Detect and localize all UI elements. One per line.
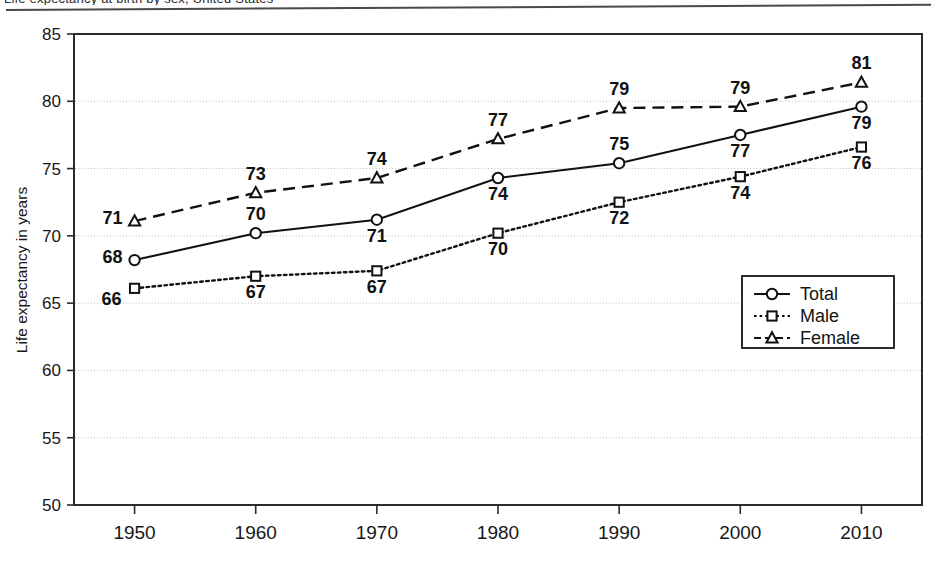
life-expectancy-line-chart: 8580757065605550 19501960197019801990200… bbox=[0, 0, 939, 566]
data-label-male-2010: 76 bbox=[851, 153, 871, 173]
legend-label-female[interactable]: Female bbox=[800, 328, 860, 348]
data-label-female-2000: 79 bbox=[730, 78, 750, 98]
y-axis-title-text: Life expectancy in years bbox=[13, 187, 30, 354]
y-tick-label-75: 75 bbox=[42, 160, 61, 179]
legend-label-male[interactable]: Male bbox=[800, 306, 839, 326]
data-label-total-1970: 71 bbox=[367, 226, 387, 246]
marker-total-1980 bbox=[493, 173, 503, 183]
marker-total-1970 bbox=[372, 215, 382, 225]
series-male bbox=[130, 142, 866, 293]
data-label-female-1950: 71 bbox=[103, 208, 123, 228]
marker-male-1950 bbox=[130, 284, 139, 293]
data-label-total-1980: 74 bbox=[488, 184, 508, 204]
marker-total-1960 bbox=[251, 228, 261, 238]
data-label-male-1980: 70 bbox=[488, 239, 508, 259]
marker-male-1980 bbox=[493, 229, 502, 238]
data-label-male-1990: 72 bbox=[609, 208, 629, 228]
marker-total-2010 bbox=[856, 101, 866, 111]
x-tick-label-1980: 1980 bbox=[477, 522, 519, 543]
marker-female-1950 bbox=[129, 215, 140, 225]
marker-total-2000 bbox=[735, 130, 745, 140]
data-label-total-1960: 70 bbox=[246, 204, 266, 224]
data-label-total-2000: 77 bbox=[730, 141, 750, 161]
data-label-total-1990: 75 bbox=[609, 134, 629, 154]
data-label-male-1970: 67 bbox=[367, 277, 387, 297]
marker-male-1970 bbox=[372, 266, 381, 275]
marker-male-2010 bbox=[857, 142, 866, 151]
chart-legend[interactable]: TotalMaleFemale bbox=[742, 276, 894, 348]
legend-label-total[interactable]: Total bbox=[800, 284, 838, 304]
data-label-female-1980: 77 bbox=[488, 110, 508, 130]
marker-female-1970 bbox=[371, 172, 382, 182]
marker-total-1950 bbox=[129, 255, 139, 265]
marker-female-1990 bbox=[614, 102, 625, 112]
data-label-male-2000: 74 bbox=[730, 183, 750, 203]
data-label-male-1950: 66 bbox=[102, 289, 122, 309]
marker-male-1960 bbox=[251, 272, 260, 281]
y-axis-title: Life expectancy in years bbox=[13, 187, 30, 354]
marker-total-1990 bbox=[614, 158, 624, 168]
marker-female-1960 bbox=[250, 187, 261, 197]
x-tick-label-1990: 1990 bbox=[598, 522, 640, 543]
y-tick-label-65: 65 bbox=[42, 294, 61, 313]
data-label-female-1990: 79 bbox=[609, 79, 629, 99]
marker-female-2010 bbox=[856, 77, 867, 87]
x-tick-label-2000: 2000 bbox=[719, 522, 761, 543]
y-axis-ticks: 8580757065605550 bbox=[42, 25, 74, 515]
square-marker bbox=[767, 311, 776, 320]
data-label-female-2010: 81 bbox=[851, 53, 871, 73]
circle-marker bbox=[767, 289, 777, 299]
marker-female-1980 bbox=[492, 133, 503, 143]
x-tick-label-1950: 1950 bbox=[113, 522, 155, 543]
y-tick-label-60: 60 bbox=[42, 361, 61, 380]
data-label-total-1950: 68 bbox=[103, 247, 123, 267]
data-label-male-1960: 67 bbox=[246, 282, 266, 302]
y-tick-label-85: 85 bbox=[42, 25, 61, 44]
data-label-total-2010: 79 bbox=[851, 113, 871, 133]
y-tick-label-80: 80 bbox=[42, 92, 61, 111]
y-tick-label-50: 50 bbox=[42, 496, 61, 515]
plot-frame bbox=[74, 34, 922, 505]
marker-male-1990 bbox=[615, 198, 624, 207]
x-tick-label-1960: 1960 bbox=[235, 522, 277, 543]
y-tick-label-55: 55 bbox=[42, 429, 61, 448]
chart-page: Life expectancy at birth by sex, United … bbox=[0, 0, 939, 566]
marker-male-2000 bbox=[736, 172, 745, 181]
data-label-female-1960: 73 bbox=[246, 164, 266, 184]
marker-female-2000 bbox=[735, 101, 746, 111]
x-axis-ticks: 1950196019701980199020002010 bbox=[113, 505, 882, 543]
data-label-female-1970: 74 bbox=[367, 149, 387, 169]
x-tick-label-1970: 1970 bbox=[356, 522, 398, 543]
y-tick-label-70: 70 bbox=[42, 227, 61, 246]
x-tick-label-2010: 2010 bbox=[840, 522, 882, 543]
